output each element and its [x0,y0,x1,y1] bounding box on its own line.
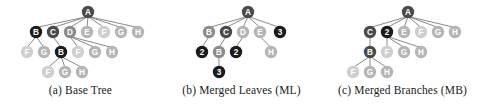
tree-node-c: C [47,26,59,38]
panel-caption-merged-branches: (c) Merged Branches (MB) [322,84,483,96]
tree-node-f: F [72,46,84,58]
node-label: 3 [217,68,222,77]
node-label: B [206,28,212,37]
tree-node-h: H [106,46,118,58]
node-label: H [268,48,274,57]
node-label: F [350,68,355,77]
tree-diagram-merged-leaves: ABCDE32B2H3 [161,0,322,84]
tree-node-f: F [98,26,110,38]
tree-node-a: A [402,6,414,18]
tree-diagram-merged-branches: AC2EFGHBFGHFGH [322,0,483,84]
tree-node-2: 2 [196,46,208,58]
node-label: G [41,48,47,57]
node-label: B [367,48,373,57]
tree-node-h: H [415,46,427,58]
tree-node-f: F [381,46,393,58]
tree-node-c: C [364,26,376,38]
tree-edge [202,36,209,47]
node-label: F [24,48,29,57]
tree-edge [27,36,36,47]
tree-edge [236,36,243,47]
node-label: H [79,68,85,77]
tree-node-b: B [55,46,67,58]
tree-node-b: B [364,46,376,58]
node-label: H [452,28,458,37]
panel-caption-merged-leaves: (b) Merged Leaves (ML) [161,84,322,96]
tree-edge [36,16,88,27]
node-label: A [85,8,91,17]
tree-node-g: G [89,46,101,58]
node-label: G [118,28,124,37]
tree-node-g: G [59,66,71,78]
node-label: G [62,68,68,77]
tree-svg-base-tree: ABCDEFGHFGBFGHFGH [0,0,161,84]
tree-node-f: F [347,66,359,78]
node-label: A [245,8,251,17]
tree-panel-base-tree: ABCDEFGHFGBFGHFGH(a) Base Tree [0,0,161,106]
node-label: F [75,48,80,57]
tree-node-h: H [381,66,393,78]
node-label: 2 [200,48,205,57]
tree-panel-merged-branches: AC2EFGHBFGHFGH(c) Merged Branches (MB) [322,0,483,106]
tree-node-g: G [115,26,127,38]
tree-edge [36,36,44,47]
node-label: F [101,28,106,37]
tree-edge [408,16,438,27]
tree-edge [387,36,404,47]
tree-node-d: D [237,26,249,38]
node-label: C [223,28,229,37]
figure-three-tree-variants: ABCDEFGHFGBFGHFGH(a) Base TreeABCDE32B2H… [0,0,483,106]
node-label: E [84,28,90,37]
tree-node-b: B [213,46,225,58]
node-label: G [401,48,407,57]
tree-edge [48,56,61,67]
tree-node-a: A [242,6,254,18]
tree-node-e: E [254,26,266,38]
tree-node-2: 2 [381,26,393,38]
tree-node-h: H [265,46,277,58]
tree-node-f: F [415,26,427,38]
tree-node-b: B [203,26,215,38]
node-label: G [435,28,441,37]
node-label: H [109,48,115,57]
tree-node-g: G [38,46,50,58]
node-label: E [257,28,263,37]
tree-node-3: 3 [213,66,225,78]
node-label: B [216,48,222,57]
tree-edge [219,36,226,47]
node-label: G [92,48,98,57]
tree-node-g: G [364,66,376,78]
tree-panel-merged-leaves: ABCDE32B2H3(b) Merged Leaves (ML) [161,0,322,106]
tree-node-a: A [82,6,94,18]
tree-node-e: E [81,26,93,38]
panel-caption-base-tree: (a) Base Tree [0,84,161,96]
tree-edge [53,36,61,47]
tree-edge [260,36,271,47]
node-group: ABCDE32B2H3 [196,6,286,78]
tree-node-h: H [76,66,88,78]
tree-node-e: E [398,26,410,38]
tree-node-h: H [449,26,461,38]
node-label: 2 [234,48,239,57]
tree-edge [370,56,387,67]
node-label: H [418,48,424,57]
node-label: H [135,28,141,37]
tree-node-f: F [21,46,33,58]
tree-svg-merged-leaves: ABCDE32B2H3 [161,0,322,84]
tree-node-f: F [42,66,54,78]
tree-node-d: D [64,26,76,38]
edge-group [27,16,138,67]
edge-group [202,16,280,67]
edge-group [353,16,455,67]
node-label: 3 [278,28,283,37]
tree-node-3: 3 [274,26,286,38]
tree-node-b: B [30,26,42,38]
tree-svg-merged-branches: AC2EFGHBFGHFGH [322,0,483,84]
node-label: A [405,8,411,17]
tree-edge [353,56,370,67]
node-label: F [45,68,50,77]
node-label: B [33,28,39,37]
tree-node-2: 2 [230,46,242,58]
tree-edge [370,16,408,27]
tree-edge [248,16,280,27]
